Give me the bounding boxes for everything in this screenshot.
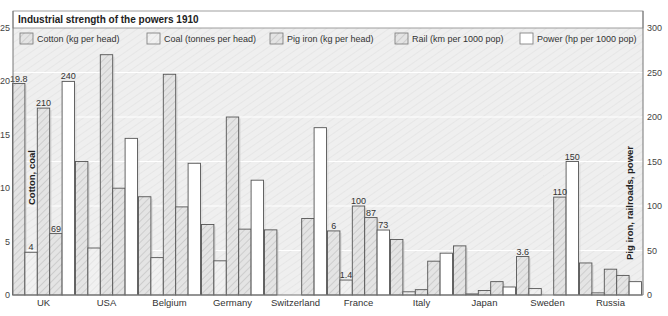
category-label: Switzerland bbox=[271, 297, 320, 308]
bar-france-rail bbox=[365, 218, 377, 295]
right-tick-label: 200 bbox=[647, 112, 662, 122]
legend-swatch bbox=[270, 33, 283, 44]
bar-germany-rail bbox=[239, 229, 251, 295]
bar-switzerland-cotton bbox=[265, 230, 277, 295]
bar-uk-power bbox=[62, 81, 74, 295]
category-label: France bbox=[344, 297, 374, 308]
bar-italy-rail bbox=[428, 261, 440, 295]
right-tick-label: 50 bbox=[647, 246, 657, 256]
bar-belgium-power bbox=[188, 163, 200, 295]
right-tick-label: 0 bbox=[647, 290, 652, 300]
left-tick-label: 25 bbox=[0, 23, 10, 33]
bar-usa-coal bbox=[88, 248, 100, 295]
legend-swatch bbox=[20, 33, 33, 44]
bar-russia-rail bbox=[617, 275, 629, 295]
chart-container: 19.842106924061.410087733.6110150 Indust… bbox=[0, 0, 668, 316]
bar-france-coal bbox=[340, 280, 352, 295]
data-label: 6 bbox=[331, 221, 336, 231]
data-label: 87 bbox=[366, 208, 376, 218]
bar-japan-pig bbox=[478, 291, 490, 295]
bar-russia-cotton bbox=[580, 263, 592, 295]
left-axis-label: Cotton, coal bbox=[26, 150, 37, 205]
left-tick-label: 0 bbox=[5, 290, 10, 300]
left-tick-label: 5 bbox=[5, 237, 10, 247]
data-label: 240 bbox=[61, 71, 76, 81]
bar-sweden-rail bbox=[554, 197, 566, 295]
legend-label: Coal (tonnes per head) bbox=[164, 34, 256, 44]
bar-usa-power bbox=[125, 138, 137, 295]
category-label: Sweden bbox=[530, 297, 564, 308]
bar-germany-coal bbox=[214, 261, 226, 295]
legend-label: Cotton (kg per head) bbox=[37, 34, 120, 44]
bar-italy-power bbox=[440, 253, 452, 295]
legend: Cotton (kg per head)Coal (tonnes per hea… bbox=[20, 33, 637, 44]
bar-chart: 19.842106924061.410087733.6110150 Indust… bbox=[0, 0, 668, 316]
bar-uk-coal bbox=[25, 252, 37, 295]
bar-belgium-coal bbox=[151, 258, 163, 295]
left-tick-label: 10 bbox=[0, 183, 10, 193]
bar-japan-cotton bbox=[454, 246, 466, 295]
right-axis-ticks: 050100150200250300 bbox=[647, 23, 662, 300]
category-label: UK bbox=[37, 297, 51, 308]
right-axis-label: Pig iron, railroads, power bbox=[624, 146, 635, 260]
bar-uk-cotton bbox=[13, 84, 25, 295]
legend-label: Power (hp per 1000 pop) bbox=[537, 34, 637, 44]
bar-germany-cotton bbox=[202, 225, 214, 295]
legend-swatch bbox=[147, 33, 160, 44]
right-tick-label: 150 bbox=[647, 157, 662, 167]
data-label: 1.4 bbox=[340, 270, 353, 280]
bar-russia-power bbox=[629, 282, 641, 295]
bar-italy-pig bbox=[415, 290, 427, 295]
bar-usa-rail bbox=[113, 188, 125, 295]
category-label: Germany bbox=[213, 297, 252, 308]
bar-france-pig bbox=[352, 206, 364, 295]
bar-usa-cotton bbox=[76, 162, 88, 296]
bar-usa-pig bbox=[100, 55, 112, 295]
bar-france-power bbox=[377, 230, 389, 295]
bar-russia-pig bbox=[604, 269, 616, 295]
bar-france-cotton bbox=[328, 231, 340, 295]
bar-sweden-cotton bbox=[517, 257, 529, 295]
bar-belgium-cotton bbox=[139, 197, 151, 295]
right-tick-label: 250 bbox=[647, 68, 662, 78]
bar-italy-cotton bbox=[391, 239, 403, 295]
legend-swatch bbox=[395, 33, 408, 44]
data-label: 4 bbox=[29, 242, 34, 252]
bar-germany-power bbox=[251, 180, 263, 295]
right-tick-label: 100 bbox=[647, 201, 662, 211]
x-axis-categories: UKUSABelgiumGermanySwitzerlandFranceItal… bbox=[37, 297, 626, 308]
bar-uk-pig bbox=[37, 108, 49, 295]
left-tick-label: 15 bbox=[0, 130, 10, 140]
left-tick-label: 20 bbox=[0, 76, 10, 86]
data-label: 210 bbox=[36, 98, 51, 108]
legend-swatch bbox=[520, 33, 533, 44]
legend-label: Pig iron (kg per head) bbox=[287, 34, 374, 44]
category-label: Japan bbox=[472, 297, 498, 308]
category-label: Italy bbox=[413, 297, 431, 308]
data-label: 100 bbox=[351, 196, 366, 206]
bar-uk-rail bbox=[50, 234, 62, 295]
data-label: 110 bbox=[553, 187, 567, 197]
category-label: USA bbox=[97, 297, 117, 308]
chart-title: Industrial strength of the powers 1910 bbox=[18, 14, 199, 25]
bar-germany-pig bbox=[226, 117, 238, 295]
bar-sweden-coal bbox=[529, 289, 541, 295]
bar-japan-rail bbox=[491, 282, 503, 295]
bar-belgium-rail bbox=[176, 207, 188, 295]
data-label: 3.6 bbox=[516, 247, 529, 257]
bar-belgium-pig bbox=[163, 74, 175, 295]
bar-japan-power bbox=[503, 287, 515, 295]
category-label: Russia bbox=[596, 297, 626, 308]
data-label: 150 bbox=[565, 152, 580, 162]
bar-switzerland-power bbox=[314, 128, 326, 295]
data-label: 73 bbox=[378, 220, 388, 230]
bar-switzerland-rail bbox=[302, 218, 314, 295]
right-tick-label: 300 bbox=[647, 23, 662, 33]
data-label: 69 bbox=[51, 224, 61, 234]
legend-label: Rail (km per 1000 pop) bbox=[412, 34, 504, 44]
category-label: Belgium bbox=[152, 297, 186, 308]
left-axis-ticks: 0510152025 bbox=[0, 23, 10, 300]
bar-sweden-power bbox=[566, 162, 578, 296]
